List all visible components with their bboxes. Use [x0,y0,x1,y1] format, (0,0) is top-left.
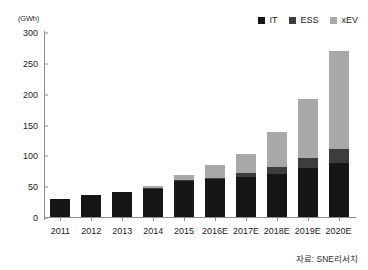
x-axis-tick-mark [246,218,247,221]
x-axis-tick-label: 2015 [174,226,194,236]
bar-group[interactable]: 2014 [138,33,169,217]
y-axis-tick-label: 50 [0,182,38,192]
y-axis-tick-label: 150 [0,121,38,131]
x-axis-tick-mark [122,218,123,221]
x-axis-tick-mark [215,218,216,221]
plot-area: 050100150200250300 201120122013201420152… [44,33,354,218]
bar-segment-ess[interactable] [329,149,349,163]
x-axis-tick-label: 2012 [81,226,101,236]
x-axis-tick-mark [277,218,278,221]
stacked-bar[interactable] [329,51,349,217]
bar-segment-it[interactable] [236,177,256,217]
bar-segment-it[interactable] [174,181,194,217]
x-axis-tick-mark [184,218,185,221]
bar-group[interactable]: 2017E [230,33,261,217]
bar-group[interactable]: 2011 [45,33,76,217]
bar-segment-it[interactable] [143,189,163,217]
bar-segment-xev[interactable] [329,51,349,150]
source-note: 자료: SNE리서치 [296,252,358,264]
square-swatch-icon [330,17,337,24]
square-swatch-icon [289,17,296,24]
y-axis-tick-mark [45,218,48,219]
stacked-bar[interactable] [50,199,70,218]
x-axis-tick-label: 2020E [326,226,352,236]
x-axis-tick-mark [339,218,340,221]
bar-group[interactable]: 2019E [292,33,323,217]
bar-segment-it[interactable] [329,163,349,217]
bar-group[interactable]: 2018E [261,33,292,217]
legend-item-it[interactable]: IT [258,15,277,25]
stacked-bar[interactable] [267,132,287,217]
x-axis-tick-label: 2011 [51,226,70,236]
x-axis-tick-label: 2013 [112,226,132,236]
chart-figure: (GWh) ITESSxEV 050100150200250300 201120… [0,0,368,270]
x-axis-tick-label: 2018E [264,226,290,236]
bar-segment-it[interactable] [112,192,132,217]
legend-item-ess[interactable]: ESS [289,15,318,25]
stacked-bar[interactable] [205,165,225,217]
x-axis-tick-mark [60,218,61,221]
x-axis-tick-label: 2016E [202,226,228,236]
legend-item-xev[interactable]: xEV [330,15,358,25]
bar-segment-it[interactable] [205,179,225,217]
stacked-bar[interactable] [174,175,194,217]
legend-item-label: IT [269,15,277,25]
legend-item-label: ESS [300,15,318,25]
stacked-bar[interactable] [81,195,101,217]
x-axis-tick-label: 2014 [143,226,163,236]
x-axis-tick-mark [153,218,154,221]
square-swatch-icon [258,17,265,24]
x-axis-tick-label: 2019E [295,226,321,236]
bar-group[interactable]: 2016E [200,33,231,217]
x-axis-tick-mark [91,218,92,221]
bar-segment-it[interactable] [298,168,318,217]
stacked-bar[interactable] [143,186,163,217]
bar-group[interactable]: 2013 [107,33,138,217]
bar-group[interactable]: 2015 [169,33,200,217]
bar-segment-it[interactable] [50,199,70,218]
bar-segment-it[interactable] [81,195,101,217]
bar-segment-ess[interactable] [267,167,287,174]
y-axis-tick-label: 100 [0,151,38,161]
bar-segment-xev[interactable] [205,165,225,177]
stacked-bar[interactable] [298,99,318,217]
y-axis-tick-label: 200 [0,90,38,100]
y-axis-tick-label: 250 [0,59,38,69]
y-axis-unit-label: (GWh) [18,14,39,23]
x-axis-tick-mark [308,218,309,221]
bar-group[interactable]: 2012 [76,33,107,217]
y-axis-tick-label: 0 [0,213,38,223]
bar-segment-xev[interactable] [236,154,256,174]
stacked-bar[interactable] [112,192,132,217]
x-axis-tick-label: 2017E [233,226,259,236]
bar-segment-xev[interactable] [267,132,287,167]
stacked-bar[interactable] [236,154,256,217]
chart-legend: ITESSxEV [258,15,358,25]
bar-series-container: 201120122013201420152016E2017E2018E2019E… [45,33,354,217]
bar-group[interactable]: 2020E [323,33,354,217]
bar-segment-ess[interactable] [298,158,318,167]
legend-item-label: xEV [341,15,358,25]
bar-segment-xev[interactable] [298,99,318,158]
bar-segment-it[interactable] [267,174,287,217]
y-axis-tick-label: 300 [0,28,38,38]
